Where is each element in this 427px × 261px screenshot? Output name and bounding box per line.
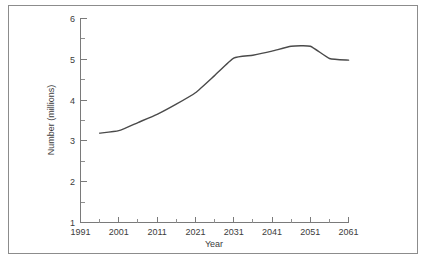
line-chart: 6 5 4 3 2 1 1991 2001 2011 2021 2031 204… — [0, 0, 427, 261]
x-tick-label: 2051 — [300, 227, 320, 237]
x-tick-label: 2011 — [147, 227, 166, 237]
data-line-series-0 — [100, 46, 349, 133]
y-axis-tick-labels: 6 5 4 3 2 1 — [70, 14, 75, 228]
x-tick-label: 2041 — [262, 227, 282, 237]
x-tick-label: 2031 — [224, 227, 244, 237]
x-tick-label: 1991 — [70, 227, 90, 237]
y-tick-label: 4 — [70, 96, 75, 106]
y-tick-label: 6 — [70, 14, 75, 24]
x-axis-tick-labels: 1991 2001 2011 2021 2031 2041 2051 2061 — [70, 227, 358, 237]
y-tick-label: 3 — [70, 136, 75, 146]
chart-svg: 6 5 4 3 2 1 1991 2001 2011 2021 2031 204… — [0, 0, 427, 261]
y-axis-title: Number (millions) — [46, 85, 56, 156]
x-axis-title: Year — [205, 239, 223, 249]
x-axis-minor-ticks — [100, 219, 330, 223]
x-tick-label: 2061 — [339, 227, 359, 237]
y-tick-label: 2 — [70, 177, 75, 187]
y-axis-minor-ticks — [81, 39, 86, 202]
x-tick-label: 2001 — [109, 227, 129, 237]
x-tick-label: 2021 — [185, 227, 205, 237]
y-tick-label: 5 — [70, 55, 75, 65]
